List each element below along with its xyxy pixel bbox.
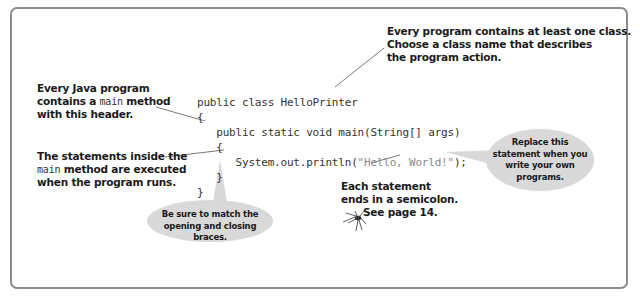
code-line-open-brace: {: [197, 110, 467, 125]
string-literal: "Hello, World!": [358, 156, 454, 169]
code-line-class: public class HelloPrinter: [197, 95, 467, 110]
main-method-note: Every Java program contains a main metho…: [37, 82, 170, 121]
statements-note: The statements inside the main method ar…: [37, 150, 187, 189]
semicolon-note: Each statement ends in a semicolon. See …: [341, 180, 458, 219]
braces-bubble-text: Be sure to match the opening and closing…: [147, 209, 273, 244]
replace-bubble-text: Replace this statement when you write yo…: [488, 137, 592, 183]
code-line-println: System.out.println("Hello, World!");: [197, 155, 467, 170]
code-line-main: public static void main(String[] args): [197, 125, 467, 140]
code-line-open-brace-main: {: [197, 140, 467, 155]
class-note: Every program contains at least one clas…: [387, 25, 631, 64]
